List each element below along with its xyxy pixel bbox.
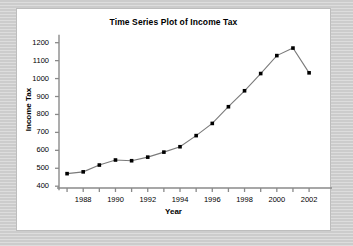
data-point-marker <box>194 134 198 138</box>
data-point-marker <box>227 105 231 109</box>
data-point-marker <box>114 158 118 162</box>
plot-area <box>17 9 330 230</box>
data-point-marker <box>178 145 182 149</box>
data-point-marker <box>243 89 247 93</box>
axes <box>55 35 332 192</box>
data-point-marker <box>275 54 279 58</box>
data-point-marker <box>307 71 311 75</box>
data-point-marker <box>162 150 166 154</box>
series-line <box>67 48 309 174</box>
data-point-marker <box>291 46 295 50</box>
data-point-marker <box>98 163 102 167</box>
data-point-marker <box>210 122 214 126</box>
data-point-marker <box>259 72 263 76</box>
data-point-marker <box>130 159 134 163</box>
data-point-marker <box>81 170 85 174</box>
chart-panel: Time Series Plot of Income Tax Income Ta… <box>17 9 330 230</box>
data-series-income-tax <box>65 46 311 175</box>
data-point-marker <box>146 155 150 159</box>
data-point-marker <box>65 172 69 176</box>
time-series-chart: Time Series Plot of Income Tax Income Ta… <box>17 9 330 230</box>
